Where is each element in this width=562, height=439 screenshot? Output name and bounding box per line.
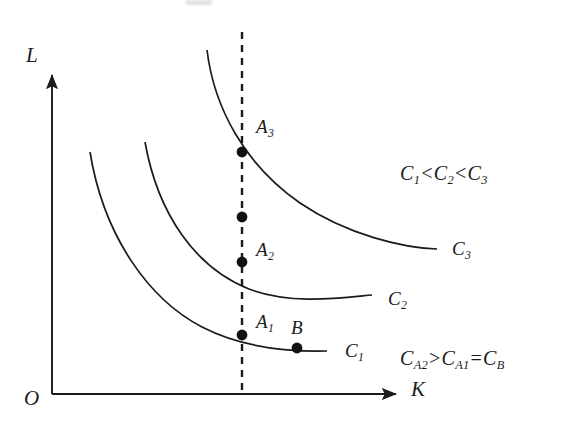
point-cost-ca1-base: C [442, 347, 456, 369]
point-label-a1: A1 [256, 312, 274, 335]
cost-ordering-op-1: < [420, 162, 433, 184]
curve-label-c2: C2 [388, 289, 407, 312]
data-point-a3 [237, 147, 248, 158]
point-cost-op-2: = [470, 347, 483, 369]
curve-label-c2-base: C [388, 288, 401, 309]
point-label-a3-sub: 3 [268, 127, 274, 140]
cost-ordering-op-2: < [454, 162, 467, 184]
x-axis-label: K [411, 379, 425, 400]
point-cost-cb-base: C [483, 347, 497, 369]
cost-ordering-c3-base: C [467, 162, 481, 184]
point-label-a3: A3 [256, 117, 274, 140]
data-point-a2 [237, 257, 248, 268]
point-cost-op-1: > [428, 347, 441, 369]
data-point-b [292, 343, 303, 354]
annotation-cost-ordering: C1<C2<C3 [400, 163, 488, 186]
curve-label-c3-base: C [452, 238, 465, 259]
curve-label-c2-sub: 2 [401, 299, 407, 312]
point-label-a2: A2 [256, 240, 274, 263]
cost-ordering-c1-base: C [400, 162, 414, 184]
data-point-unlabeled [237, 212, 248, 223]
point-cost-ca2-base: C [400, 347, 414, 369]
curve-label-c3-sub: 3 [465, 249, 471, 262]
y-axis-label: L [26, 45, 38, 66]
curve-label-c1-sub: 1 [358, 351, 364, 364]
curve-label-c3: C3 [452, 239, 471, 262]
cost-ordering-c2-base: C [434, 162, 448, 184]
cost-ordering-c3-sub: 3 [481, 173, 488, 187]
point-cost-cb-sub: B [497, 358, 505, 372]
diagram-canvas [0, 0, 562, 439]
point-label-a2-sub: 2 [268, 250, 274, 263]
point-label-a1-base: A [256, 311, 268, 332]
point-cost-ca2-sub: A2 [414, 358, 428, 372]
annotation-point-cost-relation: CA2>CA1=CB [400, 348, 505, 371]
point-cost-ca1-sub: A1 [455, 358, 469, 372]
curve-label-c1-base: C [345, 340, 358, 361]
origin-label: O [24, 388, 39, 409]
point-label-b: B [291, 318, 303, 337]
curve-label-c1: C1 [345, 341, 364, 364]
point-label-a3-base: A [256, 116, 268, 137]
data-point-a1 [237, 330, 248, 341]
isoquant-diagram: L K O A3 A2 A1 B C1 C2 C3 C1<C2<C3 CA2>C… [0, 0, 562, 439]
point-label-a2-base: A [256, 239, 268, 260]
point-label-a1-sub: 1 [268, 322, 274, 335]
cost-ordering-c2-sub: 2 [447, 173, 454, 187]
